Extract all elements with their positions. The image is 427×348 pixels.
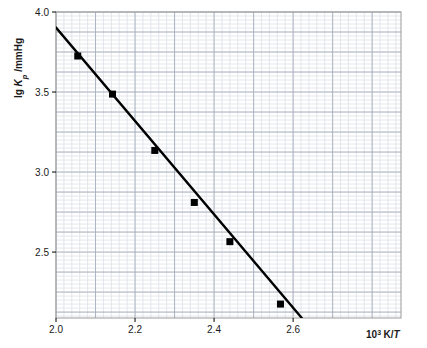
data-point <box>191 199 198 206</box>
scatter-plot: 2.02.22.42.6 2.53.03.54.0 lg Kp /mmHg 10… <box>0 0 427 348</box>
data-point <box>277 301 284 308</box>
x-tick-label: 2.6 <box>286 324 300 335</box>
data-point <box>151 147 158 154</box>
x-tick-label: 2.2 <box>128 324 142 335</box>
data-point <box>226 238 233 245</box>
y-tick-label: 4.0 <box>35 7 49 18</box>
svg-text:103K/T: 103K/T <box>366 329 401 341</box>
y-tick-label: 2.5 <box>35 247 49 258</box>
data-point <box>109 91 116 98</box>
x-axis-title: 103K/T <box>366 329 401 341</box>
chart-figure: 2.02.22.42.6 2.53.03.54.0 lg Kp /mmHg 10… <box>0 0 427 348</box>
data-point <box>74 53 81 60</box>
y-tick-label: 3.5 <box>35 87 49 98</box>
x-tick-label: 2.4 <box>207 324 221 335</box>
x-tick-label: 2.0 <box>49 324 63 335</box>
y-tick-label: 3.0 <box>35 167 49 178</box>
